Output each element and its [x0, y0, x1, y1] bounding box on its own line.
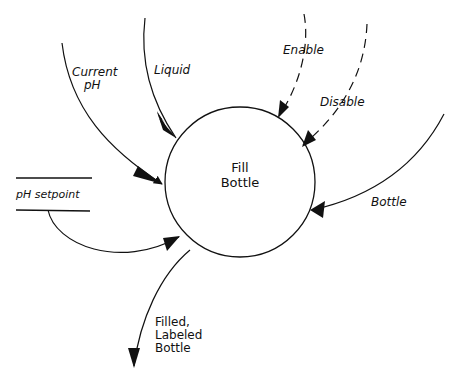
flow-enable-line	[279, 14, 306, 116]
current-ph-label-line2: pH	[72, 79, 118, 92]
arrowhead-current-ph-icon	[133, 166, 162, 184]
flow-label-bottle: Bottle	[371, 196, 407, 209]
data-store-bottom-line	[16, 210, 90, 211]
flow-label-liquid: Liquid	[154, 64, 190, 77]
process-label-line2: Bottle	[205, 175, 275, 190]
flow-label-current-ph: Current pH	[72, 66, 118, 92]
flow-ph-setpoint-line	[48, 210, 179, 252]
process-label-line1: Fill	[205, 160, 275, 175]
arrowhead-disable-icon	[302, 130, 316, 147]
flow-label-enable: Enable	[283, 44, 324, 57]
arrowhead-output-icon	[128, 348, 140, 368]
data-store-label: pH setpoint	[16, 188, 80, 201]
data-flow-diagram: Fill Bottle Current pH Liquid Enable Dis…	[0, 0, 456, 380]
arrowhead-ph-setpoint-icon	[163, 236, 180, 251]
process-label: Fill Bottle	[205, 160, 275, 190]
flow-label-disable: Disable	[320, 96, 365, 109]
output-label-line3: Bottle	[155, 342, 202, 355]
flow-label-output: Filled, Labeled Bottle	[155, 316, 202, 355]
